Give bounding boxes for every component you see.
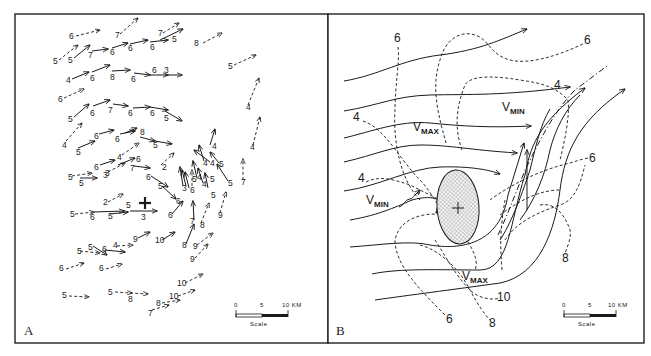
speed-label: 5 — [153, 140, 158, 150]
speed-label: 7 — [115, 30, 120, 40]
scale-tick-10: 10 KM — [282, 302, 302, 308]
speed-label: 7 — [88, 50, 93, 60]
speed-label: 4 — [554, 78, 561, 92]
speed-label: 5 — [77, 246, 82, 256]
speed-label: 6 — [110, 47, 115, 57]
speed-label: 8 — [200, 220, 205, 230]
speed-label: 6 — [90, 212, 95, 222]
speed-label: 8 — [182, 240, 187, 250]
speed-label: 8 — [194, 38, 199, 48]
speed-label: 9 — [133, 234, 138, 244]
speed-label: 6 — [589, 151, 596, 165]
panel-a-letter: A — [24, 323, 34, 338]
speed-label: 8 — [562, 251, 569, 265]
speed-label: 6 — [90, 73, 95, 83]
speed-label: 4 — [66, 75, 71, 85]
speed-label: 7 — [130, 163, 135, 173]
speed-label: 8 — [128, 294, 133, 304]
speed-label: 5 — [210, 174, 215, 184]
speed-label: 4 — [358, 171, 365, 185]
speed-label: 7 — [190, 216, 195, 226]
wind-field-figure: 6775576665846866356567665444668554646372… — [0, 0, 651, 356]
speed-label: 6 — [394, 31, 401, 45]
speed-label: 6 — [136, 154, 141, 164]
speed-label: 7 — [148, 308, 153, 318]
speed-label: 6 — [90, 108, 95, 118]
speed-label: 6 — [115, 134, 120, 144]
speed-label: 5 — [108, 211, 113, 221]
speed-label: 5 — [108, 287, 113, 297]
speed-label: 4 — [62, 140, 67, 150]
speed-label: 10 — [155, 235, 165, 245]
speed-label: 4 — [210, 158, 215, 168]
scale-tick-0: 0 — [234, 302, 238, 308]
speed-label: 4 — [246, 102, 251, 112]
speed-label: 5 — [68, 172, 73, 182]
speed-label: 5 — [172, 34, 177, 44]
speed-label: 6 — [69, 31, 74, 41]
speed-label: 4 — [353, 110, 360, 124]
speed-label: 5 — [53, 56, 58, 66]
panel-b-letter: B — [336, 323, 345, 338]
speed-label: 5 — [70, 209, 75, 219]
speed-label: 3 — [141, 212, 146, 222]
speed-label: 4 — [250, 142, 255, 152]
panel-a: 6775576665846866356567665444668554646372… — [15, 14, 328, 343]
speed-label: 3 — [182, 183, 187, 193]
speed-label: 3 — [164, 65, 169, 75]
speed-label: 5 — [62, 290, 67, 300]
speed-label: 8 — [489, 316, 496, 330]
speed-label: 6 — [150, 108, 155, 118]
speed-label: 6 — [102, 244, 107, 254]
scale-label: Scale — [578, 321, 596, 327]
speed-label: 7 — [108, 105, 113, 115]
speed-label: 6 — [94, 131, 99, 141]
speed-label: 4 — [203, 158, 208, 168]
speed-label: 5 — [68, 114, 73, 124]
speed-label: 6 — [176, 196, 181, 206]
speed-label: 6 — [58, 94, 63, 104]
speed-label: 6 — [584, 33, 591, 47]
speed-label: 6 — [446, 312, 453, 326]
speed-label: 5 — [158, 181, 163, 191]
speed-label: 5 — [88, 242, 93, 252]
speed-label: 9 — [190, 254, 195, 264]
scale-tick-5: 5 — [260, 302, 264, 308]
panel-b-frame — [328, 14, 644, 343]
speed-label: 6 — [94, 162, 99, 172]
speed-label: 4 — [113, 240, 118, 250]
speed-label: 5 — [219, 159, 224, 169]
speed-label: 5 — [76, 147, 81, 157]
speed-label: 2 — [103, 197, 108, 207]
speed-label: 6 — [128, 108, 133, 118]
speed-label: 6 — [150, 42, 155, 52]
speed-label: 6 — [128, 43, 133, 53]
speed-label: 9 — [193, 241, 198, 251]
speed-label: 6 — [146, 172, 151, 182]
speed-label: 6 — [190, 185, 195, 195]
speed-label: 6 — [152, 65, 157, 75]
speed-label: 10 — [177, 278, 187, 288]
speed-label: 6 — [59, 263, 64, 273]
speed-label: 3 — [103, 170, 108, 180]
speed-label: 5 — [211, 190, 216, 200]
speed-label: 5 — [228, 178, 233, 188]
scale-tick-10: 10 KM — [608, 302, 628, 308]
scale-label: Scale — [250, 321, 268, 327]
speed-label: 8 — [140, 127, 145, 137]
speed-label: 5 — [126, 200, 131, 210]
speed-label: 5 — [228, 61, 233, 71]
speed-label: 4 — [202, 179, 207, 189]
speed-label: 6 — [168, 210, 173, 220]
speed-label: 6 — [99, 263, 104, 273]
speed-label: 5 — [164, 113, 169, 123]
speed-label: 5 — [79, 178, 84, 188]
speed-label: 10 — [497, 290, 511, 304]
scale-tick-5: 5 — [588, 302, 592, 308]
speed-label: 6 — [131, 74, 136, 84]
speed-label: 8 — [110, 72, 115, 82]
speed-label: 8 — [156, 298, 161, 308]
speed-label: 7 — [241, 177, 246, 187]
speed-label: 4 — [117, 152, 122, 162]
speed-label: 7 — [158, 28, 163, 38]
